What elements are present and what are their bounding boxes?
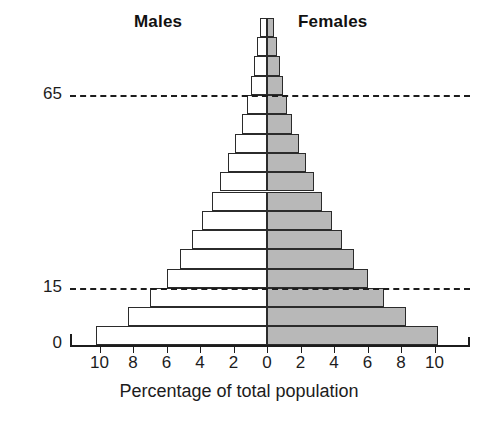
bar-male-15-19 (167, 269, 268, 288)
bar-female-35-39 (267, 192, 322, 211)
bar-male-20-24 (180, 249, 267, 268)
x-tick-label-0: 10 (90, 353, 109, 373)
x-tick-10-10 (435, 345, 436, 353)
bar-male-30-34 (202, 211, 267, 230)
x-tick-10-0 (100, 345, 101, 353)
bar-male-25-29 (192, 230, 267, 249)
x-tick-label-4: 2 (229, 353, 238, 373)
bar-female-45-49 (267, 153, 306, 172)
y-axis-label-65: 65 (18, 84, 62, 104)
bar-female-30-34 (267, 211, 332, 230)
bar-female-65-69 (267, 76, 283, 95)
plot-area (70, 28, 470, 346)
bar-stack (70, 28, 470, 345)
x-tick-0-5 (267, 345, 268, 353)
bar-female-60-64 (267, 95, 287, 114)
population-pyramid-chart: Males Females 65 15 0 1086420246810 Perc… (0, 0, 478, 437)
x-tick-8-9 (401, 345, 402, 353)
bar-male-35-39 (212, 192, 267, 211)
x-tick-4-3 (200, 345, 201, 353)
x-axis-title: Percentage of total population (0, 381, 478, 402)
bar-male-75-79 (257, 37, 267, 56)
x-tick-label-7: 4 (329, 353, 338, 373)
bar-male-5-9 (128, 307, 267, 326)
x-tick-2-4 (234, 345, 235, 353)
bar-female-70-74 (267, 56, 280, 75)
y-axis-label-0: 0 (18, 333, 62, 353)
bar-female-55-59 (267, 114, 292, 133)
x-tick-label-2: 6 (162, 353, 171, 373)
x-tick-label-9: 8 (396, 353, 405, 373)
x-tick-label-1: 8 (128, 353, 137, 373)
bar-female-20-24 (267, 249, 354, 268)
x-tick-label-5: 0 (262, 353, 271, 373)
bar-female-15-19 (267, 269, 368, 288)
bar-male-60-64 (247, 95, 267, 114)
x-axis-end-cap (468, 337, 470, 347)
x-tick-4-7 (334, 345, 335, 353)
bar-male-0-4 (96, 326, 267, 345)
bar-female-75-79 (267, 37, 277, 56)
bar-male-10-14 (150, 288, 267, 307)
x-tick-label-6: 2 (296, 353, 305, 373)
y-axis-label-15: 15 (18, 277, 62, 297)
bar-female-10-14 (267, 288, 384, 307)
x-tick-6-8 (368, 345, 369, 353)
bar-female-40-44 (267, 172, 314, 191)
x-tick-6-2 (167, 345, 168, 353)
bar-male-70-74 (254, 56, 267, 75)
reference-line-65 (70, 95, 470, 97)
bar-female-25-29 (267, 230, 342, 249)
bar-male-80+ (260, 18, 267, 37)
x-tick-8-1 (133, 345, 134, 353)
bar-female-0-4 (267, 326, 438, 345)
x-tick-2-6 (301, 345, 302, 353)
x-tick-label-3: 4 (195, 353, 204, 373)
bar-male-65-69 (251, 76, 267, 95)
bar-female-5-9 (267, 307, 406, 326)
bar-male-50-54 (235, 134, 267, 153)
x-tick-label-8: 6 (363, 353, 372, 373)
x-tick-label-10: 10 (425, 353, 444, 373)
bar-female-80+ (267, 18, 274, 37)
bar-male-40-44 (220, 172, 267, 191)
bar-male-45-49 (228, 153, 267, 172)
bar-female-50-54 (267, 134, 299, 153)
bar-male-55-59 (242, 114, 267, 133)
x-axis-line (70, 345, 470, 347)
reference-line-15 (70, 288, 470, 290)
